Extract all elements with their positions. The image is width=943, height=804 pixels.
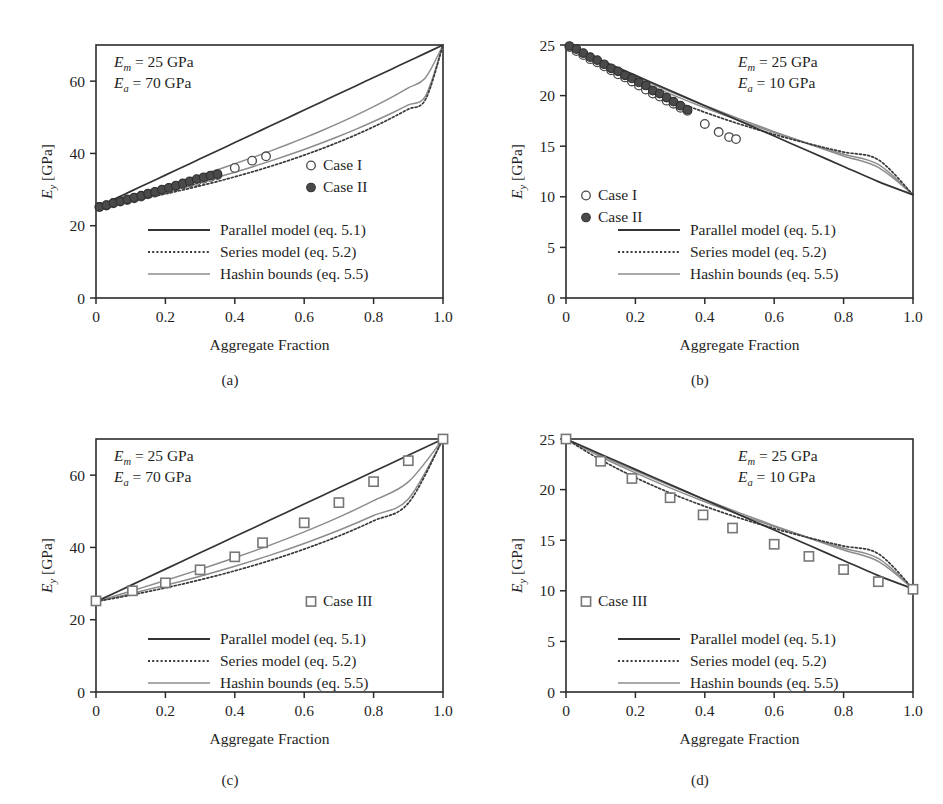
legend-marker-case-ii bbox=[582, 213, 591, 222]
data-point bbox=[231, 164, 240, 173]
data-point bbox=[369, 477, 378, 486]
y-axis-title: Ey [GPa] bbox=[38, 144, 58, 200]
y-axis-title-text: Ey [GPa] bbox=[508, 538, 528, 594]
y-tick-label: 40 bbox=[70, 539, 86, 556]
legend-label-series: Series model (eq. 5.2) bbox=[220, 652, 356, 670]
x-tick-label: 0 bbox=[562, 702, 570, 719]
y-tick-label: 20 bbox=[540, 481, 556, 498]
data-point bbox=[908, 585, 917, 594]
panel-d-caption: (d) bbox=[470, 772, 930, 789]
data-point bbox=[874, 577, 883, 586]
y-tick-label: 60 bbox=[70, 467, 86, 484]
panel-a: 00.20.40.60.81.00204060Aggregate Fractio… bbox=[0, 0, 460, 402]
param-annotation: Em = 25 GPa bbox=[113, 53, 194, 73]
data-point bbox=[596, 457, 605, 466]
panel-c: 00.20.40.60.81.00204060Aggregate Fractio… bbox=[0, 394, 460, 796]
data-point bbox=[91, 596, 100, 605]
plot-a: 00.20.40.60.81.00204060Aggregate Fractio… bbox=[0, 0, 460, 370]
x-tick-label: 0.6 bbox=[295, 308, 315, 325]
y-tick-label: 0 bbox=[547, 684, 555, 701]
y-tick-label: 10 bbox=[540, 188, 556, 205]
x-tick-label: 0 bbox=[92, 308, 100, 325]
panel-d: 00.20.40.60.81.00510152025Aggregate Frac… bbox=[470, 394, 930, 796]
y-axis-title: Ey [GPa] bbox=[508, 144, 528, 200]
legend-label-series: Series model (eq. 5.2) bbox=[690, 243, 826, 261]
x-tick-label: 0.4 bbox=[225, 308, 245, 325]
x-tick-label: 0.4 bbox=[695, 702, 715, 719]
data-point bbox=[666, 493, 675, 502]
data-point bbox=[248, 156, 257, 165]
param-annotation: Ea = 70 GPa bbox=[113, 74, 191, 94]
x-tick-label: 1.0 bbox=[433, 702, 453, 719]
data-point bbox=[698, 510, 707, 519]
legend-marker-case-iii bbox=[306, 597, 315, 606]
y-tick-label: 40 bbox=[70, 145, 86, 162]
legend-label-parallel: Parallel model (eq. 5.1) bbox=[690, 630, 836, 648]
data-point bbox=[804, 552, 813, 561]
x-tick-label: 0.8 bbox=[364, 308, 384, 325]
x-tick-label: 0.8 bbox=[834, 308, 854, 325]
legend-label-series: Series model (eq. 5.2) bbox=[690, 652, 826, 670]
legend-label-hashin: Hashin bounds (eq. 5.5) bbox=[220, 265, 369, 283]
y-tick-label: 0 bbox=[77, 684, 85, 701]
case-legend: Case ICase II bbox=[582, 186, 643, 225]
y-axis: 0204060 bbox=[70, 73, 97, 307]
case-legend: Case III bbox=[581, 592, 647, 609]
data-point bbox=[196, 565, 205, 574]
x-tick-label: 1.0 bbox=[903, 308, 923, 325]
y-axis-title: Ey [GPa] bbox=[38, 538, 58, 594]
y-tick-label: 15 bbox=[540, 138, 556, 155]
data-point bbox=[714, 128, 723, 137]
y-tick-label: 25 bbox=[540, 431, 556, 448]
case-legend: Case ICase II bbox=[307, 156, 368, 195]
y-tick-label: 20 bbox=[540, 87, 556, 104]
data-point bbox=[334, 498, 343, 507]
y-tick-label: 20 bbox=[70, 611, 86, 628]
param-annotation: Em = 25 GPa bbox=[737, 447, 818, 467]
param-annotation: Em = 25 GPa bbox=[737, 53, 818, 73]
legend-marker-case-iii bbox=[581, 597, 590, 606]
y-tick-label: 20 bbox=[70, 217, 86, 234]
x-tick-label: 0.6 bbox=[765, 308, 785, 325]
data-point bbox=[262, 152, 271, 161]
data-point bbox=[839, 565, 848, 574]
model-legend: Parallel model (eq. 5.1)Series model (eq… bbox=[618, 221, 839, 283]
data-point bbox=[701, 120, 710, 129]
legend-label-case: Case II bbox=[323, 178, 367, 195]
plot-d: 00.20.40.60.81.00510152025Aggregate Frac… bbox=[470, 394, 930, 769]
panel-b-caption: (b) bbox=[470, 372, 930, 389]
data-point bbox=[561, 434, 570, 443]
x-tick-label: 0.2 bbox=[626, 702, 645, 719]
markers-case-ii bbox=[565, 42, 692, 114]
y-tick-label: 5 bbox=[547, 239, 555, 256]
x-tick-label: 0 bbox=[562, 308, 570, 325]
x-tick-label: 0 bbox=[92, 702, 100, 719]
x-axis-title: Aggregate Fraction bbox=[209, 730, 329, 747]
data-point bbox=[230, 552, 239, 561]
panel-a-caption: (a) bbox=[0, 372, 460, 389]
legend-label-parallel: Parallel model (eq. 5.1) bbox=[220, 221, 366, 239]
y-axis-title: Ey [GPa] bbox=[508, 538, 528, 594]
param-annotation: Em = 25 GPa bbox=[113, 447, 194, 467]
case-legend: Case III bbox=[306, 592, 372, 609]
param-annotation: Ea = 70 GPa bbox=[113, 468, 191, 488]
y-tick-label: 60 bbox=[70, 73, 86, 90]
data-point bbox=[683, 105, 692, 114]
x-tick-label: 1.0 bbox=[433, 308, 453, 325]
x-tick-label: 0.2 bbox=[156, 308, 175, 325]
x-tick-label: 0.6 bbox=[765, 702, 785, 719]
x-axis: 00.20.40.60.81.0 bbox=[92, 298, 453, 325]
x-tick-label: 0.4 bbox=[225, 702, 245, 719]
y-axis-title-text: Ey [GPa] bbox=[38, 538, 58, 594]
legend-label-parallel: Parallel model (eq. 5.1) bbox=[220, 630, 366, 648]
legend-label-parallel: Parallel model (eq. 5.1) bbox=[690, 221, 836, 239]
data-point bbox=[627, 474, 636, 483]
y-tick-label: 0 bbox=[77, 290, 85, 307]
legend-label-hashin: Hashin bounds (eq. 5.5) bbox=[690, 265, 839, 283]
panel-c-caption: (c) bbox=[0, 772, 460, 789]
model-legend: Parallel model (eq. 5.1)Series model (eq… bbox=[148, 630, 369, 692]
data-point bbox=[404, 456, 413, 465]
param-annotation: Ea = 10 GPa bbox=[737, 74, 815, 94]
x-axis-title: Aggregate Fraction bbox=[679, 336, 799, 353]
y-tick-label: 0 bbox=[547, 290, 555, 307]
